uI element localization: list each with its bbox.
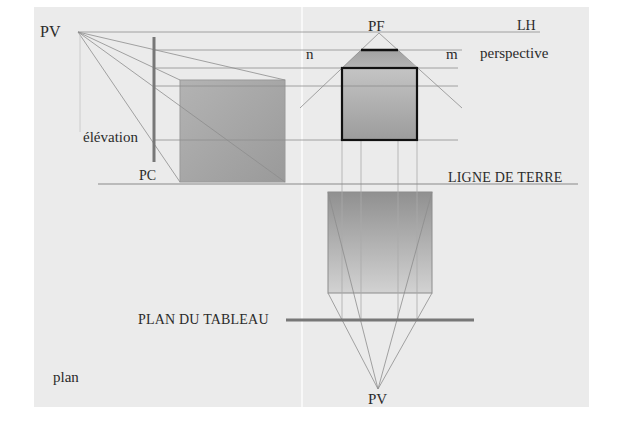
label-m: m <box>446 47 458 62</box>
label-pv-top: PV <box>40 24 60 40</box>
perspective-front-face <box>342 68 417 140</box>
perspective-diagram <box>0 0 618 429</box>
label-plan-du-tableau: PLAN DU TABLEAU <box>138 313 269 327</box>
plan-box <box>328 192 432 293</box>
label-ligne-de-terre: LIGNE DE TERRE <box>448 171 563 185</box>
label-plan: plan <box>53 370 79 385</box>
perspective-top-face <box>342 50 417 68</box>
label-elevation: élévation <box>83 130 138 145</box>
label-pv-bottom: PV <box>368 392 387 407</box>
label-pf: PF <box>368 19 385 34</box>
label-n: n <box>306 47 314 62</box>
construction-lines <box>78 32 540 389</box>
label-pc: PC <box>139 169 156 183</box>
label-perspective: perspective <box>480 46 548 61</box>
elevation-box <box>180 80 285 182</box>
label-lh: LH <box>517 19 536 33</box>
